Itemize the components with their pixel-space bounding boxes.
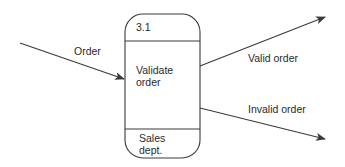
- flow-order[interactable]: Order: [20, 43, 124, 79]
- flow-valid-order-label: Valid order: [248, 52, 299, 64]
- process-id: 3.1: [136, 21, 151, 33]
- dfd-canvas: 3.1 Validate order Sales dept. Order Val…: [0, 0, 345, 167]
- flow-valid-order[interactable]: Valid order: [200, 17, 325, 66]
- process-3-1[interactable]: 3.1 Validate order Sales dept.: [125, 14, 200, 158]
- process-location-line1: Sales: [139, 132, 165, 144]
- arrow-order-icon: [20, 43, 124, 79]
- flow-invalid-order-label: Invalid order: [248, 103, 306, 115]
- process-name-line2: order: [136, 76, 161, 88]
- process-name-line1: Validate: [136, 64, 173, 76]
- process-location-line2: dept.: [139, 144, 162, 156]
- flow-invalid-order[interactable]: Invalid order: [200, 103, 325, 139]
- flow-order-label: Order: [74, 45, 101, 57]
